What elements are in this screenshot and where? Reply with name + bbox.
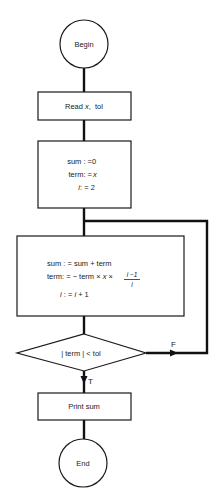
arrow-false-icon xyxy=(170,350,178,357)
init-line-sum: sum : = xyxy=(67,157,92,166)
loop-line-sum: sum : = sum + term xyxy=(47,259,112,268)
end-label: End xyxy=(76,459,89,468)
read-label: Read x, tol xyxy=(65,102,103,111)
node-loop: sum : = sum + term term: = − term × x × … xyxy=(17,236,184,316)
loop-line-i: i : = i + 1 xyxy=(60,290,89,299)
node-print: Print sum xyxy=(38,393,131,420)
false-label: F xyxy=(171,340,176,349)
node-begin: Begin xyxy=(60,20,108,68)
loop-line-term: term: = − term × x × xyxy=(47,272,113,281)
print-label: Print sum xyxy=(68,402,100,411)
node-decision: | term | < tol xyxy=(17,334,146,371)
flowchart: Begin Read x, tol sum : = 0 term: = x i … xyxy=(0,0,218,504)
node-init: sum : = 0 term: = x i : = 2 xyxy=(38,141,131,208)
init-line-term: term: = xyxy=(68,170,92,179)
decision-label: | term | < tol xyxy=(61,349,101,358)
init-line-sum-value: 0 xyxy=(92,157,96,166)
arrow-true-icon xyxy=(81,376,88,384)
init-line-term-value: x xyxy=(92,170,97,179)
node-end: End xyxy=(59,439,107,487)
begin-label: Begin xyxy=(74,40,93,49)
init-line-i-value: : = 2 xyxy=(80,183,95,192)
node-read: Read x, tol xyxy=(38,92,131,120)
true-label: T xyxy=(88,377,93,386)
fraction-numerator: i −1 xyxy=(127,271,138,278)
